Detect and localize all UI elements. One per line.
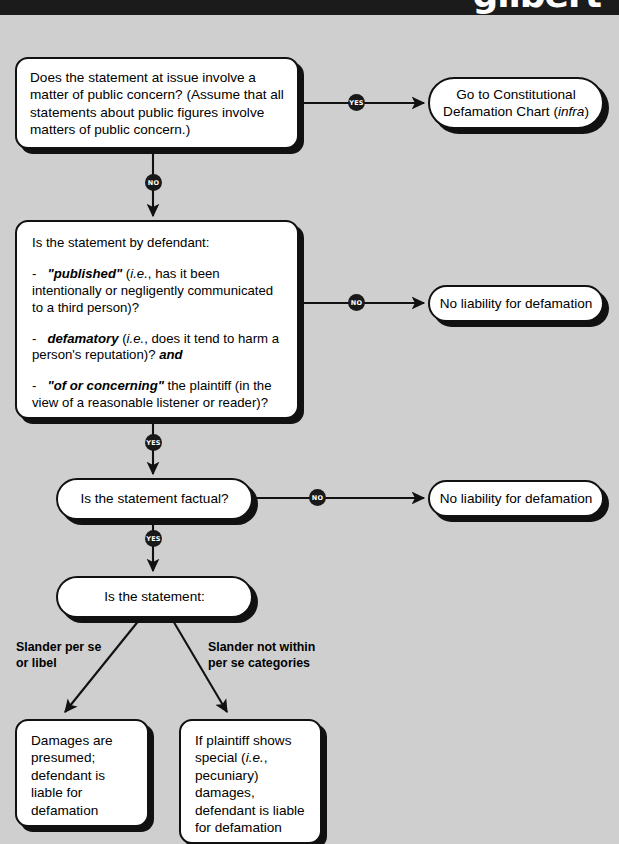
flowchart-canvas: YES NO NO YES NO YES Does the statement …	[0, 15, 619, 841]
node-no-liability-lower[interactable]: No liability for defamation	[428, 480, 604, 517]
badge-yes-statement-by-defendant: YES	[145, 434, 162, 451]
sbd-intro: Is the statement by defendant:	[32, 235, 282, 252]
badge-yes-public-concern: YES	[348, 94, 365, 111]
goto-line-2-tail: )	[584, 104, 589, 119]
sbd-bullet-2: - defamatory (i.e., does it tend to harm…	[32, 331, 282, 365]
branch-label-slander-not-within: Slander not within per se categories	[208, 639, 315, 671]
brand-logo: gilbert	[472, 0, 601, 15]
sd-line-2-pre: special (	[195, 750, 246, 765]
sbd-bullet-3: - "of or concerning" the plaintiff (in t…	[32, 378, 282, 412]
node-special-damages[interactable]: If plaintiff shows special (i.e., pecuni…	[179, 719, 322, 844]
goto-line-2-italic: infra	[558, 104, 584, 119]
sd-line-2-post: ,	[264, 750, 268, 765]
sbd-b1-term: "published"	[47, 266, 122, 281]
node-damages-presumed[interactable]: Damages are presumed; defendant is liabl…	[15, 719, 149, 827]
node-statement-by-defendant[interactable]: Is the statement by defendant: - "publis…	[15, 220, 299, 419]
node-public-concern[interactable]: Does the statement at issue involve a ma…	[15, 57, 299, 149]
node-no-liability-upper[interactable]: No liability for defamation	[428, 285, 604, 322]
sbd-b3-term: "of or concerning"	[47, 378, 164, 393]
node-public-concern-text: Does the statement at issue involve a ma…	[30, 69, 284, 139]
node-is-statement[interactable]: Is the statement:	[56, 576, 253, 618]
sbd-b2-term: defamatory	[47, 331, 118, 346]
header-band: gilbert	[0, 0, 619, 15]
node-is-statement-factual[interactable]: Is the statement factual?	[56, 478, 253, 520]
node-no-liability-lower-text: No liability for defamation	[440, 490, 593, 507]
goto-line-2-plain: Defamation Chart (	[443, 104, 558, 119]
node-is-statement-text: Is the statement:	[104, 588, 205, 605]
sd-line-2-italic: i.e.	[246, 750, 264, 765]
sbd-b3-dash: -	[32, 378, 36, 393]
node-goto-constitutional-chart[interactable]: Go to Constitutional Defamation Chart (i…	[428, 77, 604, 129]
goto-line-1: Go to Constitutional	[456, 87, 575, 102]
branch-label-slander-per-se: Slander per se or libel	[16, 639, 101, 671]
node-goto-constitutional-chart-text: Go to Constitutional Defamation Chart (i…	[443, 86, 589, 121]
badge-yes-is-factual: YES	[145, 530, 162, 547]
sd-line-6: for defamation	[195, 820, 282, 835]
node-special-damages-text: If plaintiff shows special (i.e., pecuni…	[195, 733, 305, 835]
badge-no-is-factual: NO	[309, 489, 326, 506]
sbd-b1-dash: -	[32, 266, 36, 281]
badge-no-public-concern: NO	[145, 174, 162, 191]
sbd-b2-dash: -	[32, 331, 36, 346]
sd-line-1: If plaintiff shows	[195, 733, 291, 748]
badge-no-statement-by-defendant: NO	[348, 294, 365, 311]
sd-line-3: pecuniary)	[195, 768, 258, 783]
node-is-statement-factual-text: Is the statement factual?	[80, 490, 228, 507]
sbd-bullet-1: - "published" (i.e., has it been intenti…	[32, 266, 282, 317]
node-no-liability-upper-text: No liability for defamation	[440, 295, 593, 312]
sd-line-5: defendant is liable	[195, 803, 305, 818]
sd-line-4: damages,	[195, 785, 255, 800]
node-damages-presumed-text: Damages are presumed; defendant is liabl…	[31, 732, 133, 819]
